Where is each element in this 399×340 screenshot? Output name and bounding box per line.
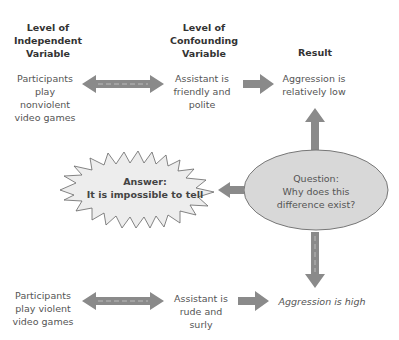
double-arrow-bottom	[82, 292, 164, 310]
arrow-left	[218, 182, 244, 198]
arrow-right-top	[243, 74, 274, 94]
answer-text: Answer: It is impossible to tell	[80, 175, 210, 201]
arrow-down	[305, 232, 325, 288]
arrow-up	[305, 108, 325, 150]
question-text: Question: Why does this difference exist…	[266, 172, 366, 211]
answer-label: Answer:	[80, 175, 210, 188]
question-body: Why does this difference exist?	[276, 185, 356, 211]
double-arrow-top	[82, 75, 164, 93]
header-confounding: Level of Confounding Variable	[166, 21, 242, 60]
answer-body: It is impossible to tell	[80, 188, 210, 201]
header-independent: Level of Independent Variable	[8, 21, 88, 60]
bottom-independent-text: Participants play violent video games	[10, 289, 76, 328]
header-result: Result	[290, 46, 340, 59]
bottom-result-text: Aggression is high	[272, 295, 372, 308]
top-independent-text: Participants play nonviolent video games	[12, 72, 78, 124]
bottom-confounding-text: Assistant is rude and surly	[168, 292, 234, 331]
question-label: Question:	[266, 172, 366, 185]
top-result-text: Aggression is relatively low	[278, 72, 350, 98]
top-confounding-text: Assistant is friendly and polite	[168, 72, 236, 111]
arrow-right-bottom	[238, 291, 269, 311]
